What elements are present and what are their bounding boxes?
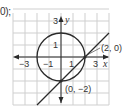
point-label: (0, −2) bbox=[65, 84, 91, 94]
x-tick-label: 3 bbox=[93, 59, 98, 69]
x-tick-label: 1 bbox=[69, 59, 74, 69]
x-axis-label: x bbox=[102, 58, 108, 69]
y-tick-label: 1 bbox=[53, 40, 58, 50]
x-tick-label: −3 bbox=[19, 59, 29, 69]
intersection-point bbox=[59, 79, 62, 82]
y-axis-arrow-up-icon bbox=[59, 16, 64, 22]
point-label: (2, 0) bbox=[101, 43, 122, 53]
y-axis-label: y bbox=[64, 14, 70, 25]
labels: −3−11331xy(2, 0)(0, −2) bbox=[19, 14, 122, 94]
graph-circle-and-line: −3−11331xy(2, 0)(0, −2) bbox=[0, 0, 133, 112]
intersection-point bbox=[83, 55, 86, 58]
y-axis-arrow-down-icon bbox=[59, 97, 64, 103]
y-tick-label: 3 bbox=[53, 16, 58, 26]
x-tick-label: −1 bbox=[43, 59, 53, 69]
